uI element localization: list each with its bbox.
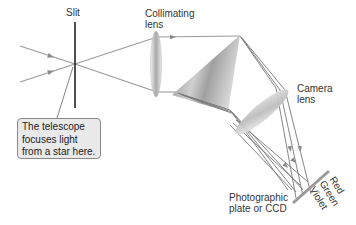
incoming-light-rays bbox=[20, 37, 157, 92]
telescope-callout: The telescope focuses light from a star … bbox=[17, 118, 101, 159]
camera-lens-label: Camera lens bbox=[297, 83, 333, 105]
collimating-lens-label: Collimating lens bbox=[145, 8, 194, 30]
slit-label: Slit bbox=[66, 7, 80, 18]
plate-label: Photographic plate or CCD bbox=[229, 192, 288, 214]
spectrograph-diagram bbox=[0, 0, 356, 225]
callout-pointer bbox=[57, 67, 73, 118]
collimating-lens bbox=[151, 31, 162, 97]
prism bbox=[172, 35, 240, 112]
